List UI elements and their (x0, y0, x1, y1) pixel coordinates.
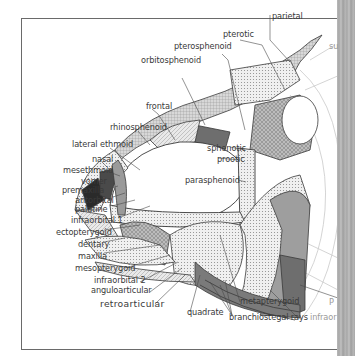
label-infraorbital-1: infraorbital 1 (71, 216, 123, 224)
label-right-cut-p: P (329, 298, 334, 306)
label-right-cut-top: su (329, 42, 338, 50)
page-gutter (337, 0, 355, 356)
label-lateral-ethmoid: lateral ethmoid (72, 140, 133, 148)
label-maxilla: maxilla (78, 252, 107, 260)
label-pterosphenoid: pterosphenoid (174, 42, 232, 50)
label-antorbital: antorbital (75, 196, 114, 204)
label-quadrate: quadrate (187, 308, 223, 316)
label-palatine: palatine (75, 205, 107, 213)
label-prootic: prootic (217, 155, 245, 163)
label-dentary: dentary (78, 240, 109, 248)
label-nasal: nasal (92, 155, 113, 163)
label-anguloarticular: anguloarticular (91, 286, 152, 294)
label-frontal: frontal (146, 102, 172, 110)
label-metapterygoid: metapterygoid (240, 297, 299, 305)
label-parasphenoid: parasphenoid (185, 176, 240, 184)
label-mesethmoid: mesethmoid (63, 166, 113, 174)
label-retroarticular: retroarticular (100, 299, 165, 308)
label-vomer: vomer (81, 177, 107, 185)
label-ectopterygoid: ectopterygoid (56, 228, 112, 236)
label-infraorbital-2: infraorbital 2 (94, 276, 146, 284)
label-branchiostegal-rays: branchiostegal rays (229, 313, 308, 321)
label-rhinosphenoid: rhinosphenoid (110, 123, 167, 131)
fish-skull-illustration (0, 0, 355, 356)
label-parietal: parietal (272, 12, 303, 20)
label-mesopterygoid: mesopterygoid (75, 264, 135, 272)
label-orbitosphenoid: orbitosphenoid (141, 56, 201, 64)
label-premaxilla: premaxilla (62, 186, 104, 194)
label-infraorbital-cut: infraor (310, 313, 336, 321)
label-sphenotic: sphenotic (207, 144, 246, 152)
label-pterotic: pterotic (223, 30, 254, 38)
